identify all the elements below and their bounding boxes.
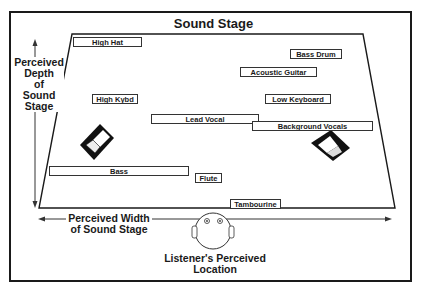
depth-label-line: Stage (14, 101, 64, 112)
listener-label: Listener's Perceived Location (160, 253, 270, 275)
width-axis-label: Perceived Width of Sound Stage (66, 213, 152, 235)
instrument-bass-drum: Bass Drum (290, 49, 342, 59)
depth-axis-label: Perceived Depth of Sound Stage (14, 57, 64, 112)
width-label-line: of Sound Stage (66, 224, 152, 235)
width-arrow-right-icon (385, 217, 392, 222)
listener-label-line: Location (160, 264, 270, 275)
listener-head-icon (192, 213, 234, 249)
depth-arrow-up-icon (33, 39, 38, 46)
instrument-tambourine: Tambourine (230, 199, 281, 209)
instrument-bass: Bass (49, 166, 189, 176)
instrument-acoustic-guitar: Acoustic Guitar (240, 67, 317, 77)
depth-arrow-down-icon (33, 201, 38, 208)
width-arrow-left-icon (38, 217, 45, 222)
instrument-flute: Flute (195, 173, 222, 183)
instrument-high-hat: High Hat (73, 37, 142, 47)
instrument-background-vocals: Background Vocals (252, 121, 373, 131)
instrument-high-kybd: High Kybd (92, 94, 138, 104)
instrument-low-keyboard: Low Keyboard (265, 94, 331, 104)
instrument-lead-vocal: Lead Vocal (151, 114, 259, 124)
